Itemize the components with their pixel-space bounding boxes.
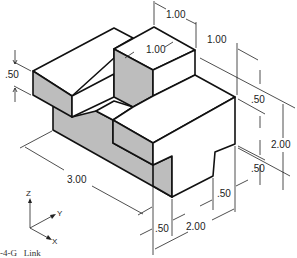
dim-tower-width: 1.00 <box>166 9 186 20</box>
dim-bottom-step: .50 <box>217 188 231 199</box>
axis-y-label: Y <box>57 209 63 218</box>
y-arrow-icon <box>50 214 56 219</box>
dim-length: 3.00 <box>67 174 87 185</box>
axis-z-label: Z <box>26 189 31 198</box>
object-link <box>33 27 235 197</box>
dim-right-total: 2.00 <box>271 139 291 150</box>
dim-top-left-height: .50 <box>5 69 19 80</box>
axis-triad: Z Y X <box>26 189 63 246</box>
dim-tower-depth: 1.00 <box>146 44 166 55</box>
z-arrow-icon <box>28 198 32 203</box>
dim-bottom-left: .50 <box>155 223 169 234</box>
dim-bottom-width: 2.00 <box>186 221 206 232</box>
y-axis-line <box>30 215 54 228</box>
axis-x-label: X <box>52 237 58 246</box>
dim-right-lower: .50 <box>251 163 265 174</box>
dim-right-upper: .50 <box>251 94 265 105</box>
dim-right-offset: 1.00 <box>207 34 227 45</box>
figure-caption: -4-G Link <box>0 248 41 258</box>
isometric-drawing: .50 1.00 1.00 1.00 .50 2.00 .50 .50 2.00… <box>0 0 297 258</box>
